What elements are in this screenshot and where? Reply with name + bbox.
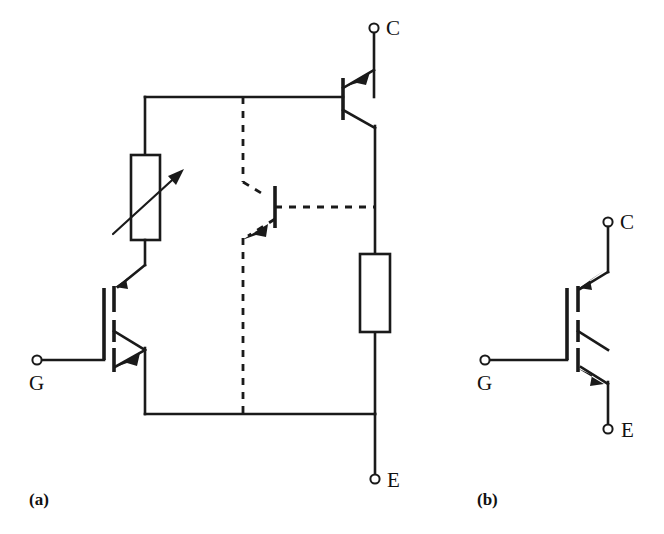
a-emitter-lead <box>370 414 379 484</box>
a-collector-lead <box>369 23 378 97</box>
a-resistor <box>360 254 390 332</box>
b-collector-arrow <box>579 270 605 290</box>
b-emitter-arrow <box>577 368 604 386</box>
a-gate-label: G <box>29 371 44 395</box>
a-collector-label: C <box>386 16 400 40</box>
a-collector-terminal-dot <box>369 23 378 32</box>
panel-a-equivalent-circuit: C G E (a) <box>29 16 400 509</box>
b-emitter-label: E <box>621 418 634 442</box>
b-collector-terminal-dot <box>603 217 612 226</box>
a-pnp-transistor <box>343 70 375 128</box>
a-npn-transistor-dashed <box>242 97 375 414</box>
b-emitter-terminal-dot <box>603 424 612 433</box>
b-gate-label: G <box>477 371 492 395</box>
a-emitter-terminal-dot <box>370 474 379 483</box>
b-collector-lead <box>580 217 613 289</box>
b-igbt-symbol <box>480 270 612 434</box>
a-npn-emitter-arrow <box>242 224 268 240</box>
a-mosfet <box>42 269 145 414</box>
figure-root: C G E (a) <box>0 0 664 534</box>
b-caption: (b) <box>477 490 498 509</box>
a-emitter-label: E <box>387 468 400 492</box>
b-collector-label: C <box>620 210 634 234</box>
circuit-diagram-svg: C G E (a) <box>0 0 664 534</box>
a-caption: (a) <box>29 490 49 509</box>
a-gate-terminal-dot <box>32 355 41 364</box>
a-variable-resistor <box>113 155 184 240</box>
panel-b-igbt-symbol: C G E (b) <box>477 210 634 509</box>
b-gate-terminal-dot <box>480 355 489 364</box>
